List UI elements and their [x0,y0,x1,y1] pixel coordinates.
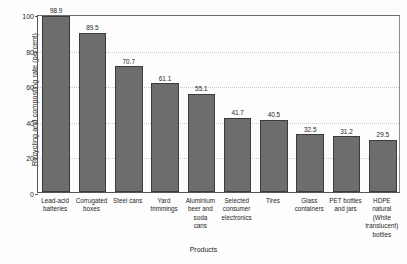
y-axis-tick-mark [35,194,38,195]
bar[interactable] [79,33,107,192]
x-axis-title: Products [0,246,407,253]
category-label-line: Aluminium [182,197,218,205]
x-axis-category-label: Lead-acidbatteries [37,197,73,214]
bar[interactable] [369,140,397,193]
bar-series: 98.989.570.761.155.141.740.532.531.229.5 [38,16,399,192]
bar-slot: 29.5 [365,16,401,192]
category-label-line: (White [364,214,400,222]
bar[interactable] [333,136,361,192]
category-label-line: HDPE natural [364,197,400,214]
bar[interactable] [188,94,216,192]
x-axis-category-label: Yardtrimmings [146,197,182,214]
bar-value-label: 29.5 [365,131,401,138]
bar-value-label: 41.7 [220,109,256,116]
category-label-line: boxes [73,205,109,213]
plot-area: 020406080100 98.989.570.761.155.141.740.… [37,15,400,193]
category-label-line: Glass [291,197,327,205]
bar-slot: 89.5 [74,16,110,192]
bar-slot: 70.7 [111,16,147,192]
category-label-line: Steel cans [110,197,146,205]
category-label-line: consumer [219,205,255,213]
x-axis-category-label: Aluminiumbeer and sodacans [182,197,218,231]
bar-value-label: 70.7 [111,58,147,65]
bar-chart: Recycling and composting rate (percent) … [0,0,407,264]
x-axis-category-labels: Lead-acidbatteriesCorrugatedboxesSteel c… [37,197,400,247]
category-label-line: cans [182,222,218,230]
bar-value-label: 61.1 [147,75,183,82]
bar-slot: 98.9 [38,16,74,192]
category-label-line: Corrugated [73,197,109,205]
category-label-line: batteries [37,205,73,213]
bar-slot: 32.5 [292,16,328,192]
bar[interactable] [296,134,324,192]
bar[interactable] [115,66,143,192]
category-label-line: electronics [219,214,255,222]
bar-value-label: 98.9 [38,7,74,14]
bar[interactable] [151,83,179,192]
x-axis-category-label: HDPE natural(Whitetranslucent)bottles [364,197,400,239]
category-label-line: bottles [364,231,400,239]
x-axis-category-label: Tires [255,197,291,205]
category-label-line: Yard [146,197,182,205]
category-label-line: trimmings [146,205,182,213]
bar[interactable] [42,16,70,192]
category-label-line: Lead-acid [37,197,73,205]
x-axis-category-label: PET bottlesand jars [327,197,363,214]
bar-value-label: 32.5 [292,126,328,133]
bar-value-label: 89.5 [74,24,110,31]
bar-value-label: 31.2 [328,128,364,135]
bar-slot: 31.2 [328,16,364,192]
bar-value-label: 55.1 [183,85,219,92]
bar-slot: 41.7 [220,16,256,192]
category-label-line: beer and soda [182,205,218,222]
bar-slot: 40.5 [256,16,292,192]
x-axis-category-label: Steel cans [110,197,146,205]
x-axis-category-label: Glasscontainers [291,197,327,214]
category-label-line: Selected [219,197,255,205]
category-label-line: translucent) [364,222,400,230]
bar[interactable] [260,120,288,192]
bar-slot: 61.1 [147,16,183,192]
bar-slot: 55.1 [183,16,219,192]
x-axis-category-label: Selectedconsumerelectronics [219,197,255,222]
category-label-line: PET bottles [327,197,363,205]
bar-value-label: 40.5 [256,111,292,118]
x-axis-category-label: Corrugatedboxes [73,197,109,214]
bar[interactable] [224,118,252,192]
category-label-line: and jars [327,205,363,213]
category-label-line: Tires [255,197,291,205]
category-label-line: containers [291,205,327,213]
